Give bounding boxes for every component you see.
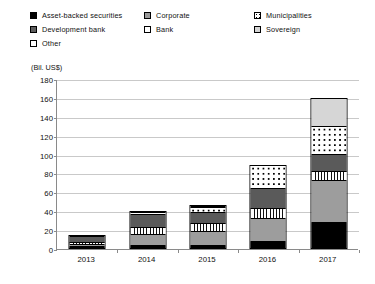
x-tick-mark [117,250,118,253]
bar-segment-devbank [311,155,346,171]
bar-segment-bank [130,228,165,235]
development-bank-swatch-icon [30,26,37,33]
legend-item-bank[interactable]: Bank [144,25,173,34]
bar-group[interactable] [299,79,359,249]
x-tick-mark [359,250,360,253]
stacked-bar-2017[interactable] [310,98,347,249]
plot-area [56,80,358,250]
x-tick-label-2014: 2014 [116,255,176,264]
bar-series-container [57,79,359,249]
bar-segment-muni [251,166,286,190]
y-tick-label: 0 [29,246,53,255]
bar-segment-devbank [70,237,105,244]
y-tick-label: 80 [29,170,53,179]
y-tick-label: 20 [29,227,53,236]
bar-segment-devbank [190,213,225,224]
x-tick-label-2013: 2013 [56,255,116,264]
y-tick-label: 40 [29,208,53,217]
x-tick-label-2015: 2015 [177,255,237,264]
bar-segment-devbank [251,189,286,209]
other-swatch-icon [30,40,37,47]
stacked-bar-chart: Asset-backed securities Corporate Munici… [0,0,375,284]
y-tick-label: 120 [29,132,53,141]
sovereign-swatch-icon [254,26,261,33]
bar-group[interactable] [178,79,238,249]
legend-label: Corporate [156,11,190,20]
bar-segment-devbank [130,215,165,228]
x-tick-label-2017: 2017 [298,255,358,264]
stacked-bar-2014[interactable] [129,211,166,249]
legend-item-development-bank[interactable]: Development bank [30,25,105,34]
x-tick-mark [299,250,300,253]
bar-segment-muni [311,127,346,155]
legend-label: Asset-backed securities [42,11,122,20]
legend-label: Other [42,39,61,48]
legend-item-municipalities[interactable]: Municipalities [254,11,312,20]
bar-segment-bank [251,209,286,218]
x-tick-mark [238,250,239,253]
legend-label: Sovereign [266,25,300,34]
legend-item-corporate[interactable]: Corporate [144,11,190,20]
municipalities-swatch-icon [254,12,261,19]
bar-segment-corp [130,235,165,246]
bar-segment-asset [251,242,286,248]
bar-segment-bank [311,172,346,181]
asset-swatch-icon [30,12,37,19]
y-tick-label: 180 [29,76,53,85]
legend-item-sovereign[interactable]: Sovereign [254,25,300,34]
bar-segment-bank [190,224,225,232]
y-tick-label: 140 [29,113,53,122]
bar-segment-corp [190,232,225,246]
bar-segment-corp [311,181,346,224]
legend-item-other[interactable]: Other [30,39,61,48]
chart-legend: Asset-backed securities Corporate Munici… [30,11,370,55]
y-tick-label: 160 [29,94,53,103]
legend-label: Bank [156,25,173,34]
bar-group[interactable] [57,79,117,249]
bar-group[interactable] [117,79,177,249]
y-axis-unit-label: (Bil. US$) [31,63,62,72]
x-tick-label-2016: 2016 [237,255,297,264]
x-axis-tick-labels: 20132014201520162017 [56,255,358,269]
y-tick-mark [54,250,57,251]
bar-segment-asset [70,247,105,248]
legend-item-asset-backed-securities[interactable]: Asset-backed securities [30,11,122,20]
x-tick-mark [178,250,179,253]
y-axis-tick-labels: 180160140120100806040200 [27,80,53,250]
legend-label: Municipalities [266,11,312,20]
bar-segment-asset [130,246,165,248]
y-tick-label: 100 [29,151,53,160]
bar-segment-corp [251,219,286,243]
corporate-swatch-icon [144,12,151,19]
stacked-bar-2016[interactable] [250,165,287,249]
stacked-bar-2013[interactable] [69,235,106,249]
bar-group[interactable] [238,79,298,249]
y-tick-label: 60 [29,189,53,198]
bar-segment-asset [190,246,225,248]
legend-label: Development bank [42,25,105,34]
bank-swatch-icon [144,26,151,33]
bar-segment-asset [311,223,346,248]
stacked-bar-2015[interactable] [189,205,226,250]
bar-segment-sov [311,99,346,127]
